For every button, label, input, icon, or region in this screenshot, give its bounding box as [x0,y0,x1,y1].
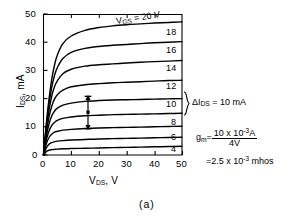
curve-label-12: 12 [166,82,177,91]
curve-label-10: 10 [166,100,177,109]
plot-svg [0,0,299,220]
curve-label-18: 18 [166,28,177,37]
gm-num-base: 10 x 10 [214,128,244,138]
x-axis-title-sub: DS [96,179,105,186]
curve-label-14: 14 [166,64,177,73]
curve-label-4: 4 [171,145,176,154]
curve-label-16: 16 [166,46,177,55]
y-axis-title-unit: , mA [15,74,26,95]
y-axis-title: IDS, mA [16,74,27,108]
figure-container: 50 40 30 20 10 0 0 10 20 30 40 50 IDS, m… [0,0,299,220]
x-axis-title-unit: , V [105,175,118,186]
curve-label-6: 6 [171,133,176,142]
delta-brace [184,92,189,115]
y-tick-label-0: 0 [32,150,38,160]
x-axis-title: VDS, V [89,176,118,187]
y-tick-label-30: 30 [25,65,36,75]
gm-result: =2.5 x 10-3 mhos [206,156,274,166]
curve-4 [44,146,183,155]
figure-caption: (a) [139,199,155,210]
delta-ids-arrow [85,95,92,130]
gm-fraction: 10 x 10-3A4V [212,128,257,148]
gm-result-unit: mhos [249,156,274,166]
y-tick-label-10: 10 [25,121,36,131]
gm-equation: gm=10 x 10-3A4V [196,128,257,148]
gm-denominator: 4V [212,139,257,148]
gm-result-prefix: =2.5 x 10 [206,156,243,166]
x-tick-label-0: 0 [40,159,46,169]
delta-ids-sub: DS [201,100,210,107]
y-tick-label-50: 50 [25,9,36,19]
delta-ids-symbol: ΔI [192,97,201,107]
curve-label-8: 8 [171,118,176,127]
x-tick-label-40: 40 [149,159,160,169]
gm-num-unit: A [249,128,255,138]
y-tick-label-40: 40 [25,37,36,47]
x-ticks [44,151,183,155]
x-tick-label-10: 10 [65,159,76,169]
x-tick-label-50: 50 [176,159,187,169]
x-axis-title-main: V [89,175,96,186]
y-axis-title-main: I [15,105,26,108]
y-axis-title-sub: DS [19,96,26,105]
curve-group [44,22,183,155]
x-tick-label-30: 30 [121,159,132,169]
x-tick-label-20: 20 [93,159,104,169]
delta-ids-value: = 10 mA [210,97,246,107]
delta-ids-annotation: ΔIDS = 10 mA [192,98,246,108]
